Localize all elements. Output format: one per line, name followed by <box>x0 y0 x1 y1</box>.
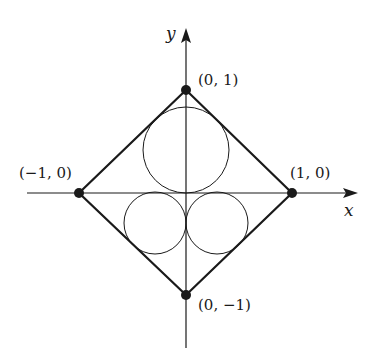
diagram-canvas: y x (0, 1) (1, 0) (0, −1) (−1, 0) <box>0 0 381 364</box>
vertex-dot-bottom <box>181 290 191 300</box>
vertex-label-right: (1, 0) <box>290 164 330 182</box>
y-axis-label: y <box>165 23 176 43</box>
vertex-label-top: (0, 1) <box>198 71 238 89</box>
vertex-label-left: (−1, 0) <box>19 164 72 182</box>
vertex-dot-top <box>181 85 191 95</box>
vertex-dot-left <box>74 188 84 198</box>
vertex-dot-right <box>287 188 297 198</box>
vertex-label-bottom: (0, −1) <box>198 296 251 314</box>
x-axis-label: x <box>344 200 354 220</box>
